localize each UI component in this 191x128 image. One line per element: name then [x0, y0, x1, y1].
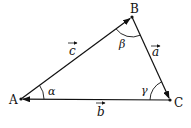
- vector-b-line: [23, 99, 170, 100]
- triangle-diagram: A B C c a b α β γ: [0, 0, 191, 128]
- vector-b-label-group: b: [96, 103, 105, 119]
- vector-c-label-group: c: [68, 43, 77, 58]
- vertex-a-label: A: [8, 93, 18, 107]
- vertex-a-dot: [19, 97, 22, 100]
- angle-gamma-arc: [150, 82, 162, 100]
- vector-a-label-group: a: [151, 45, 160, 59]
- vector-b-label: b: [97, 105, 105, 119]
- vector-c-line: [21, 19, 130, 100]
- angle-alpha-arc: [40, 85, 45, 99]
- angle-beta-arc: [116, 29, 140, 37]
- angle-alpha-label: α: [48, 85, 56, 98]
- angle-beta-label: β: [118, 38, 125, 51]
- vector-c-label: c: [69, 44, 76, 58]
- vertex-b-label: B: [130, 2, 139, 16]
- vector-a-label: a: [152, 45, 159, 59]
- vector-a-line: [132, 17, 169, 98]
- angle-gamma-label: γ: [141, 84, 148, 97]
- vertex-c-label: C: [174, 96, 183, 110]
- vertex-c-dot: [168, 98, 171, 101]
